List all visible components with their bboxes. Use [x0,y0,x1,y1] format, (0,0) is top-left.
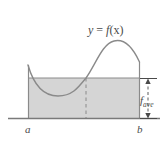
average-value-label-subscript: ave [143,100,153,109]
dimension-arrow-up-icon [145,79,150,85]
x-axis-label-a: a [25,124,31,135]
shaded-average-rectangle [28,78,140,118]
function-equation-argument: (x) [109,23,123,37]
dimension-arrow-down-icon [145,113,150,119]
function-equation-equals: = [93,23,106,37]
average-value-label: fave [140,95,153,109]
average-value-of-function-figure: y = f(x) a b fave [0,0,168,146]
x-axis-label-b: b [137,124,143,135]
function-equation-label: y = f(x) [88,24,123,36]
